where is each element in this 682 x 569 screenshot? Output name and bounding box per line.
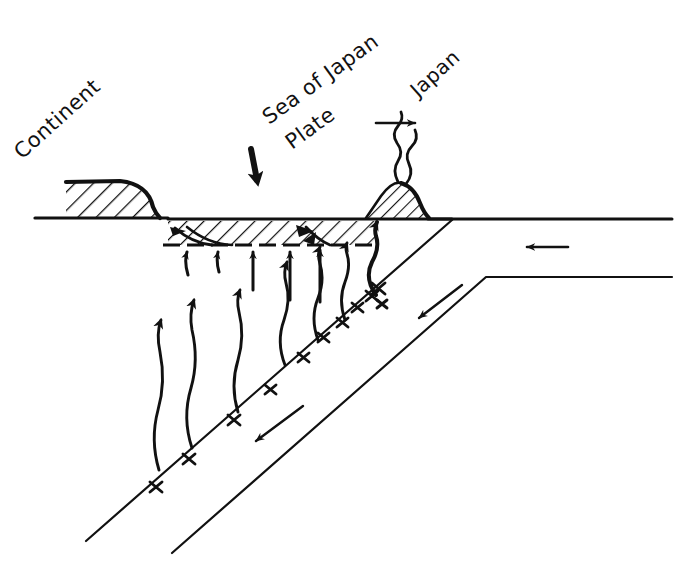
downslope-arrow-upper <box>419 285 462 318</box>
continent-wedge <box>66 181 160 218</box>
magma-wavy-arrow-3 <box>234 290 242 412</box>
continent-wedge-hatch <box>66 181 158 217</box>
earthquake-focus-x <box>337 318 348 327</box>
label-japan: Japan <box>404 45 465 103</box>
uplift-arrow-2 <box>217 252 219 272</box>
earthquake-focus-x <box>228 415 240 425</box>
magma-wavy-arrow-4 <box>280 262 288 365</box>
slab-bottom-line <box>172 277 672 553</box>
volcano <box>366 112 429 218</box>
rifted-crust-band <box>163 221 378 245</box>
continent-label: Continent <box>9 74 105 164</box>
down-arrow-sea-of-japan <box>251 149 257 180</box>
crust-uplift-arrows <box>186 250 320 302</box>
magma-wavy-arrow-2 <box>187 300 196 448</box>
label-sea-of-japan-plate: Sea of Japan Plate <box>258 29 383 154</box>
label-continent: Continent <box>9 74 105 164</box>
earthquake-focus-x <box>150 482 162 492</box>
subduction-cross-section-figure: Continent Sea of Japan Plate Japan <box>0 0 682 569</box>
earthquake-foci-group <box>150 283 387 492</box>
uplift-arrow-1 <box>186 252 188 275</box>
subducting-slab <box>86 220 672 553</box>
diagram-canvas: Continent Sea of Japan Plate Japan <box>0 0 682 569</box>
magma-wavy-arrow-6 <box>342 243 349 320</box>
volcano-smoke-plume-2 <box>406 130 416 184</box>
magma-wavy-arrow-1 <box>154 320 162 470</box>
downslope-arrow-lower <box>256 406 303 441</box>
earthquake-focus-x <box>265 385 276 394</box>
earthquake-focus-x <box>298 353 309 362</box>
slab-top-line <box>86 220 452 541</box>
earthquake-focus-x <box>183 454 195 464</box>
japan-label: Japan <box>404 45 465 103</box>
earthquake-focus-x <box>377 300 387 308</box>
